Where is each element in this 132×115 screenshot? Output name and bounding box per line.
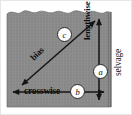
marker-c: c (57, 27, 72, 42)
marker-a: a (93, 64, 108, 79)
label-crosswise: crosswise (24, 87, 60, 97)
fabric-grain-diagram: lengthwise selvage crosswise bias a b c (0, 0, 132, 115)
label-selvage: selvage (114, 49, 124, 76)
label-lengthwise: lengthwise (83, 1, 92, 40)
marker-b: b (70, 84, 85, 99)
